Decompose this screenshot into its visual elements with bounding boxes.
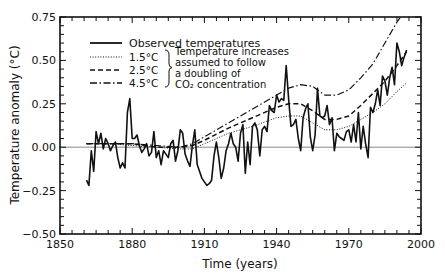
y-tick-label: 0.75 bbox=[32, 11, 57, 24]
legend-note-line-1: Temperature increases bbox=[174, 46, 289, 57]
legend-label-4-5: 4.5°C bbox=[129, 77, 158, 89]
x-tick-label: 1880 bbox=[118, 238, 146, 251]
x-tick-label: 1910 bbox=[190, 238, 218, 251]
y-axis-label: Temperature anomaly (°C) bbox=[8, 45, 22, 205]
y-tick-label: 0.50 bbox=[32, 54, 57, 67]
y-tick-label: 0.00 bbox=[32, 141, 57, 154]
legend-label-2-5: 2.5°C bbox=[129, 64, 158, 76]
legend: Observed temperatures 1.5°C 2.5°C 4.5°C … bbox=[90, 37, 289, 90]
x-axis-label: Time (years) bbox=[201, 257, 278, 271]
y-tick-label: 0.25 bbox=[32, 98, 57, 111]
x-tick-label: 1970 bbox=[335, 238, 363, 251]
legend-brace bbox=[165, 50, 172, 87]
x-tick-label: 1940 bbox=[263, 238, 291, 251]
y-tick-label: −0.50 bbox=[22, 228, 56, 241]
y-tick-label: −0.25 bbox=[22, 185, 56, 198]
x-tick-label: 2000 bbox=[407, 238, 435, 251]
legend-note-line-3: a doubling of bbox=[175, 68, 241, 79]
legend-note-line-2: assumed to follow bbox=[175, 57, 266, 68]
series-layer bbox=[87, 8, 407, 185]
legend-label-1-5: 1.5°C bbox=[129, 51, 158, 63]
temperature-anomaly-chart: 185018801910194019702000−0.50−0.250.000.… bbox=[0, 0, 445, 276]
legend-note-line-4: CO₂ concentration bbox=[175, 79, 266, 90]
